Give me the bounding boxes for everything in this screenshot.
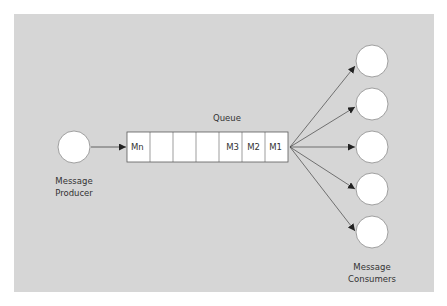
queue-cell-m2: M2 [247, 142, 260, 152]
consumer-node [356, 216, 388, 248]
producer-label-line2: Producer [55, 188, 93, 198]
consumers-label-line2: Consumers [348, 274, 396, 284]
producer-node [58, 131, 90, 163]
queue-box [127, 132, 288, 162]
consumer-node [356, 88, 388, 120]
message-queue-diagram: Message Producer Queue Mn M3 M2 M1 [0, 0, 447, 306]
queue-cell-mn: Mn [131, 142, 144, 152]
consumers-label-line1: Message [353, 262, 390, 272]
producer-label-line1: Message [55, 176, 92, 186]
queue-cell-m3: M3 [226, 142, 239, 152]
queue-title: Queue [213, 113, 241, 123]
consumer-node [356, 131, 388, 163]
consumer-node [356, 173, 388, 205]
consumer-node [356, 45, 388, 77]
queue-cell-m1: M1 [269, 142, 282, 152]
